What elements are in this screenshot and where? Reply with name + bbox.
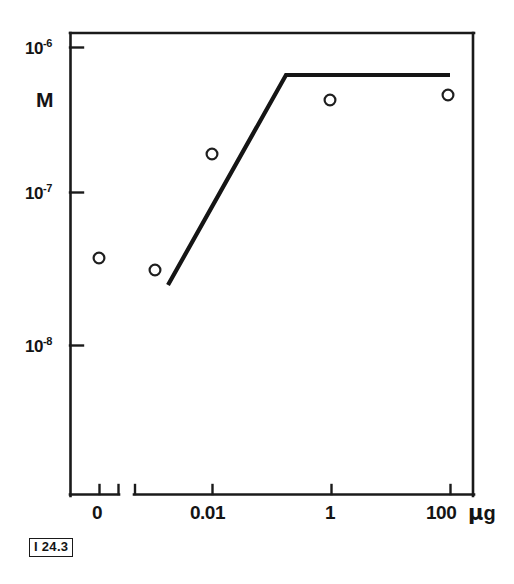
x-tick-label-0.01: 0.01 — [190, 503, 225, 522]
x-axis-unit-label: μg — [468, 503, 496, 524]
chart-plot-area — [0, 0, 514, 584]
y-tick-label-1e-6: 10-6 — [25, 38, 52, 57]
x-axis-ticks — [100, 485, 451, 494]
x-tick-label-100: 100 — [426, 503, 456, 522]
figure-container: 10-6 10-7 10-8 M 0 0.01 1 100 μg I 24.3 — [0, 0, 514, 584]
y-tick-exponent: -8 — [43, 335, 52, 347]
y-axis-title: M — [36, 89, 54, 110]
x-tick-label-1: 1 — [325, 503, 335, 522]
mu-glyph: μ — [468, 501, 483, 525]
y-tick-label-1e-7: 10-7 — [25, 183, 52, 202]
figure-id-badge: I 24.3 — [29, 538, 73, 557]
fitted-curve — [168, 75, 450, 285]
y-axis-ticks — [70, 48, 83, 346]
y-tick-exponent: -6 — [43, 37, 52, 49]
data-point-markers — [94, 90, 454, 276]
fitted-curve-path — [168, 75, 450, 285]
data-point-marker — [94, 253, 105, 264]
gram-glyph: g — [483, 502, 495, 524]
data-point-marker — [150, 265, 161, 276]
data-point-marker — [207, 149, 218, 160]
data-point-marker — [325, 95, 336, 106]
data-point-marker — [443, 90, 454, 101]
y-tick-exponent: -7 — [43, 182, 52, 194]
x-tick-label-0: 0 — [92, 503, 102, 522]
y-tick-label-1e-8: 10-8 — [25, 336, 52, 355]
